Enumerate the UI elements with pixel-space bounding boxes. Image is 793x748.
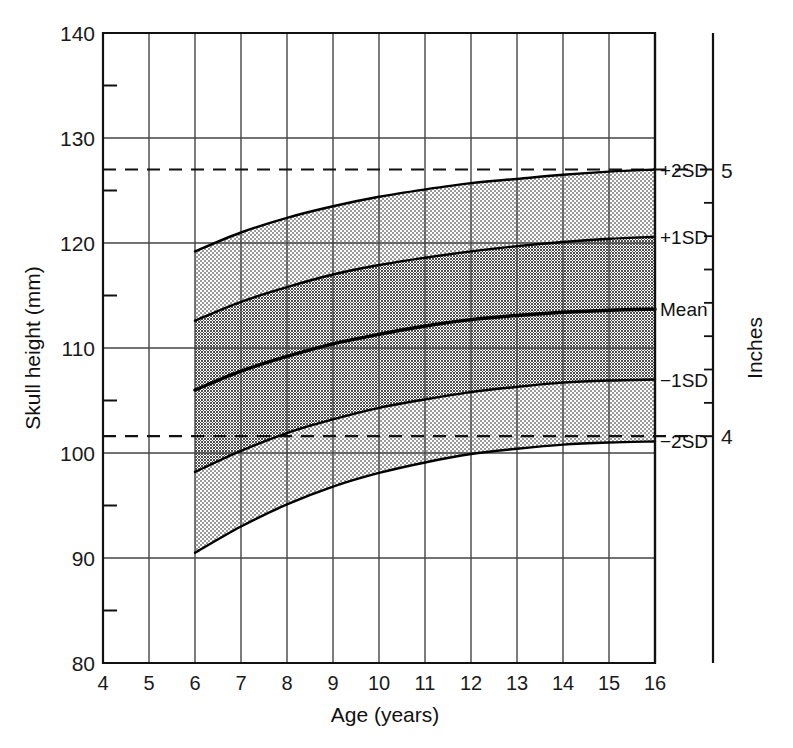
x-tick-label: 6 <box>189 672 200 694</box>
y-tick-label: 120 <box>60 232 95 255</box>
y-tick-label: 130 <box>60 127 95 150</box>
chart-figure: 45678910111213141516 8090100110120130140… <box>0 0 793 748</box>
label-plus1sd: +1SD <box>660 227 708 248</box>
inch-5-label: 5 <box>721 159 733 182</box>
x-tick-label: 16 <box>644 672 666 694</box>
x-tick-label: 4 <box>97 672 108 694</box>
x-tick-label: 5 <box>143 672 154 694</box>
y-tick-label: 90 <box>72 547 95 570</box>
secondary-y-axis-title: Inches <box>743 317 766 379</box>
label-minus2sd: −2SD <box>660 431 708 452</box>
y-tick-label: 140 <box>60 22 95 45</box>
label-mean: Mean <box>660 299 708 320</box>
x-tick-label: 13 <box>506 672 528 694</box>
x-tick-label: 10 <box>368 672 390 694</box>
x-tick-label: 8 <box>281 672 292 694</box>
y-tick-label: 100 <box>60 442 95 465</box>
x-tick-label: 11 <box>415 672 436 694</box>
x-axis-title: Age (years) <box>331 703 440 726</box>
x-tick-label: 12 <box>460 672 482 694</box>
inch-4-label: 4 <box>721 425 733 448</box>
label-plus2sd: +2SD <box>660 160 708 181</box>
x-tick-label: 14 <box>552 672 574 694</box>
x-tick-label: 15 <box>598 672 620 694</box>
skull-height-growth-chart: 45678910111213141516 8090100110120130140… <box>0 0 793 748</box>
x-tick-label: 7 <box>235 672 246 694</box>
y-tick-label: 110 <box>62 337 95 360</box>
label-minus1sd: −1SD <box>660 370 708 391</box>
y-axis-title: Skull height (mm) <box>21 266 44 429</box>
y-tick-label: 80 <box>72 652 95 675</box>
x-tick-label: 9 <box>327 672 338 694</box>
